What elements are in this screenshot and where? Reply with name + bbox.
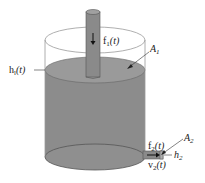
area-outlet-label: A2 — [183, 132, 194, 145]
outlet-velocity-label: v2(t) — [148, 159, 167, 172]
outlet-height-label: h2 — [174, 149, 183, 162]
level-label: hl(t) — [9, 64, 26, 77]
area-top-label: A1 — [149, 43, 160, 56]
liquid-body — [45, 70, 145, 170]
tank-diagram: f1(t) A1 hl(t) f2(t) A2 h2 v2(t) — [0, 0, 205, 183]
inflow-label: f1(t) — [103, 35, 120, 48]
